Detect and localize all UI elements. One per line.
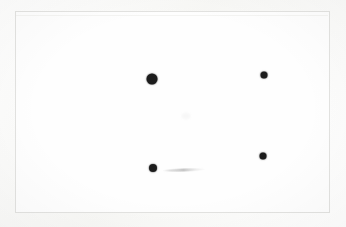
streak-bottom-artifact	[162, 168, 206, 173]
scan-canvas	[0, 0, 346, 227]
smudge-center-artifact	[182, 113, 191, 119]
dot-bottom-left	[149, 164, 157, 172]
dot-top-right	[261, 72, 268, 79]
card-frame	[15, 11, 330, 213]
dot-top-left	[147, 74, 158, 85]
dot-bottom-right	[260, 153, 267, 160]
dot-plot-area	[16, 12, 329, 212]
